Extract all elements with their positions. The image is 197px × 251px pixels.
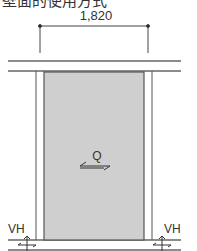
- top-beam: [8, 61, 181, 71]
- dimension-label: 1,820: [80, 8, 113, 23]
- left-vh-arrow-icon: [18, 236, 36, 251]
- dimension-line: [39, 25, 150, 54]
- left-vh-label: VH: [8, 222, 25, 236]
- right-vh-arrow-icon: [153, 236, 171, 251]
- shear-label: Q: [92, 149, 101, 163]
- wall-diagram: 壁面的使用方式 1,820 Q VH VH: [0, 0, 197, 251]
- right-vh-label: VH: [164, 222, 181, 236]
